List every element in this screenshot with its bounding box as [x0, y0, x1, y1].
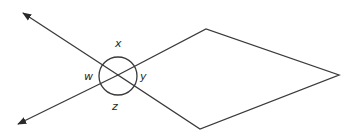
angle-label-w: w: [84, 70, 93, 83]
angle-label-x: x: [114, 37, 122, 50]
geometry-diagram: x w y z: [0, 0, 358, 137]
line-upper-left-ray: [23, 13, 118, 75]
kite-shape: [118, 29, 339, 129]
angle-label-z: z: [111, 100, 118, 113]
angle-label-y: y: [139, 70, 147, 83]
angle-circle: [99, 57, 137, 95]
line-lower-left-ray: [18, 75, 118, 124]
